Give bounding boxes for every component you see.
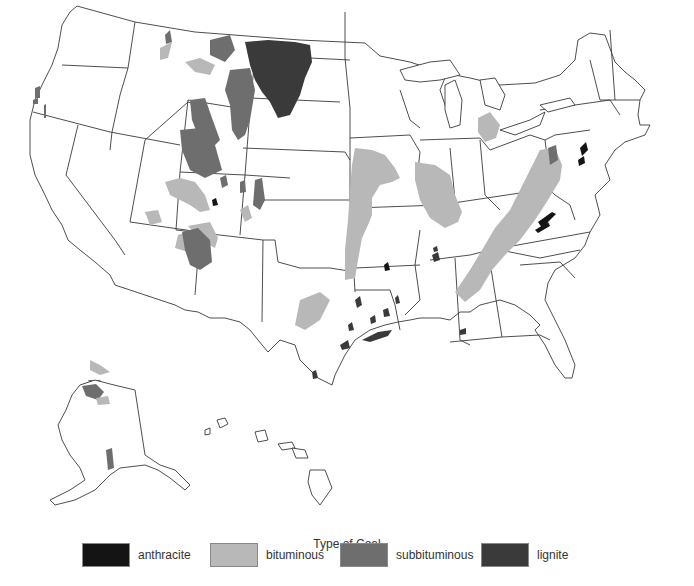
legend-item-subbituminous: subbituminous bbox=[340, 543, 473, 567]
us-outline bbox=[30, 6, 650, 385]
legend-label: subbituminous bbox=[396, 548, 473, 562]
lignite-swatch bbox=[481, 543, 529, 567]
legend-item-bituminous: bituminous bbox=[210, 543, 324, 567]
legend-label: lignite bbox=[537, 548, 568, 562]
coal-map bbox=[0, 0, 694, 520]
hawaii-outline bbox=[205, 418, 332, 505]
bituminous-swatch bbox=[210, 543, 258, 567]
alaska-outline bbox=[50, 380, 190, 505]
anthracite-swatch bbox=[82, 543, 130, 567]
legend-item-anthracite: anthracite bbox=[82, 543, 191, 567]
legend-label: bituminous bbox=[266, 548, 324, 562]
legend-label: anthracite bbox=[138, 548, 191, 562]
subbituminous-swatch bbox=[340, 543, 388, 567]
legend-item-lignite: lignite bbox=[481, 543, 568, 567]
